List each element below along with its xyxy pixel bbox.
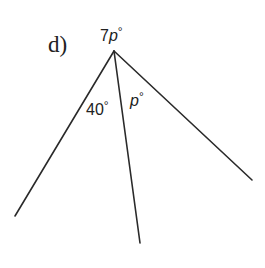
angle-label-7p: 7p° (100, 25, 123, 44)
ray-right (114, 51, 252, 180)
angle-label-p: p° (129, 90, 144, 109)
angle-label-40: 40° (86, 99, 109, 118)
ray-middle (114, 51, 140, 243)
ray-left (15, 51, 114, 216)
part-label: d) (48, 32, 67, 57)
angle-diagram: d) 7p° 40° p° (0, 0, 265, 268)
